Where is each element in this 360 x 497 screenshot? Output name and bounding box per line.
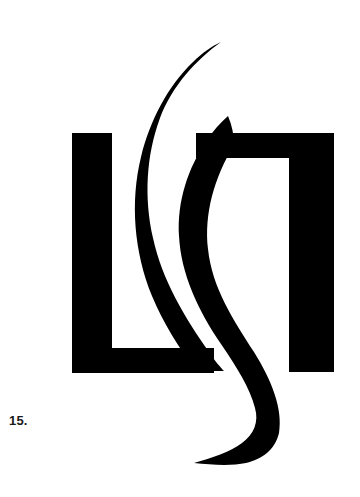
page-root: 15. — [0, 0, 360, 497]
logo-figure — [0, 0, 360, 497]
figure-caption: 15. — [9, 414, 28, 427]
logo-mark-svg — [0, 0, 360, 497]
